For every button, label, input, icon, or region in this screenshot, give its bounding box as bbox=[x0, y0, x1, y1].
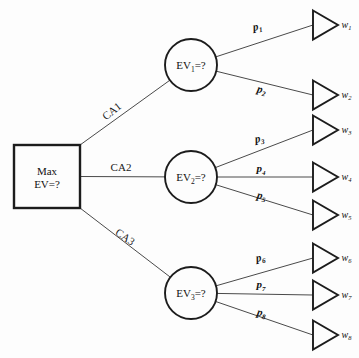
probability-label-p4: p4 bbox=[256, 162, 267, 177]
outcome-node-label-w3: w3 bbox=[342, 124, 353, 137]
outcome-node-w2[interactable] bbox=[313, 81, 338, 110]
outcome-node-label-w4: w4 bbox=[342, 171, 353, 184]
outcome-node-w7[interactable] bbox=[313, 281, 338, 310]
probability-label-p2: p2 bbox=[255, 82, 268, 98]
diagram-canvas: MaxEV=?EV1=?EV2=?EV3=?w1w2w3w4w5w6w7w8 C… bbox=[0, 0, 359, 358]
probability-edge-p1 bbox=[216, 25, 313, 57]
branch-label-ca3: CA3 bbox=[113, 226, 137, 248]
outcome-node-label-w8: w8 bbox=[342, 329, 353, 342]
outcome-node-label-w2: w2 bbox=[342, 89, 353, 102]
probability-edge-p3 bbox=[215, 130, 313, 168]
probability-edge-p7 bbox=[217, 293, 313, 295]
branch-edge-ca1 bbox=[80, 80, 170, 145]
outcome-node-w3[interactable] bbox=[313, 116, 338, 145]
decision-tree-diagram: MaxEV=?EV1=?EV2=?EV3=?w1w2w3w4w5w6w7w8 C… bbox=[0, 0, 359, 358]
outcome-node-label-w1: w1 bbox=[342, 19, 352, 32]
nodes-layer: MaxEV=?EV1=?EV2=?EV3=?w1w2w3w4w5w6w7w8 bbox=[14, 11, 352, 350]
outcome-node-label-w7: w7 bbox=[342, 289, 353, 302]
outcome-node-w8[interactable] bbox=[313, 321, 338, 350]
outcome-node-label-w6: w6 bbox=[342, 252, 353, 265]
outcome-node-w1[interactable] bbox=[313, 11, 338, 40]
outcome-node-w4[interactable] bbox=[313, 163, 338, 192]
branch-label-ca1: CA1 bbox=[100, 100, 124, 122]
decision-node-root[interactable] bbox=[14, 145, 80, 208]
probability-label-p1: p1 bbox=[251, 19, 264, 35]
outcome-node-w5[interactable] bbox=[313, 201, 338, 230]
outcome-node-label-w5: w5 bbox=[342, 209, 353, 222]
branch-label-ca2: CA2 bbox=[111, 161, 132, 173]
probability-label-p3: p3 bbox=[253, 131, 266, 147]
probability-label-p5: p5 bbox=[255, 188, 268, 204]
decision-node-label: MaxEV=? bbox=[34, 165, 60, 190]
probability-label-p6: p6 bbox=[254, 250, 267, 266]
outcome-node-w6[interactable] bbox=[313, 244, 338, 273]
probability-label-p7: p7 bbox=[256, 278, 267, 293]
